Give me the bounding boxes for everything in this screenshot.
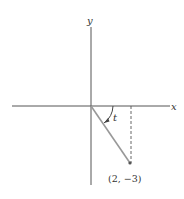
y-axis-label: y bbox=[86, 15, 93, 26]
point-marker bbox=[128, 161, 131, 164]
coordinate-diagram: y x t (2, −3) bbox=[0, 0, 184, 199]
radius-segment bbox=[91, 106, 130, 163]
x-axis-label: x bbox=[171, 101, 177, 112]
point-label: (2, −3) bbox=[108, 173, 142, 184]
angle-label: t bbox=[113, 112, 118, 123]
